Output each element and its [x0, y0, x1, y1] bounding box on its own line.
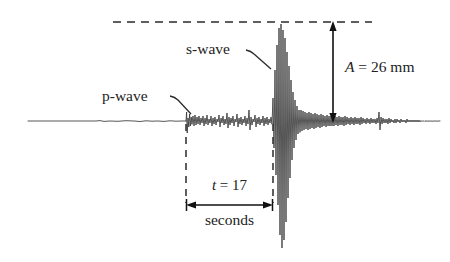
s-wave-leader-line	[246, 50, 271, 69]
amplitude-measure-arrow	[329, 21, 336, 123]
p-wave-label: p-wave	[102, 88, 148, 104]
time-value: = 17	[216, 177, 247, 193]
amplitude-label: A = 26 mm	[345, 59, 414, 75]
trace-p-wave-onset	[186, 112, 192, 133]
trace-s-wave-coda	[300, 110, 440, 132]
s-wave-label: s-wave	[186, 41, 230, 57]
trace-p-wave-coda	[192, 110, 272, 130]
p-wave-leader-line	[170, 96, 191, 114]
seismogram-figure: s-wave p-wave A = 26 mm t = 17 seconds	[0, 0, 450, 262]
time-interval-arrow	[186, 199, 273, 211]
time-interval-label: t = 17	[186, 178, 273, 193]
amplitude-value: = 26 mm	[354, 58, 414, 75]
time-units-label: seconds	[178, 212, 281, 228]
trace-baseline-quiet	[28, 121, 186, 122]
